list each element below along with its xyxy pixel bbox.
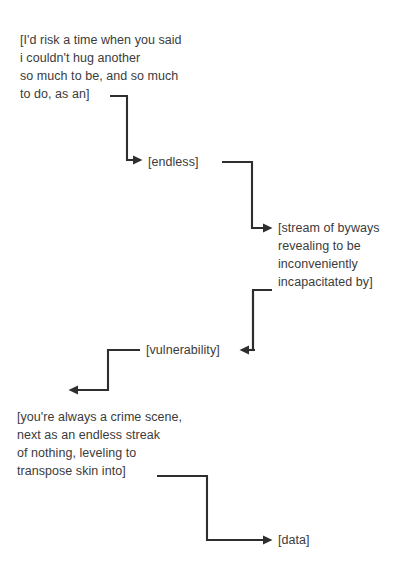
connector-endless-to-stream bbox=[222, 162, 273, 233]
source-passage: [I'd risk a time when you said i couldn'… bbox=[20, 31, 182, 103]
connector-stream-to-vulnerability bbox=[240, 290, 273, 355]
arrowhead-left bbox=[69, 385, 79, 394]
arrowhead-left bbox=[240, 345, 250, 354]
stream-passage: [stream of byways revealing to be inconv… bbox=[278, 219, 380, 291]
connector-crime-to-data bbox=[157, 476, 273, 545]
arrowhead-right bbox=[133, 155, 143, 164]
endless-node: [endless] bbox=[148, 153, 198, 171]
vulnerability-node: [vulnerability] bbox=[146, 341, 220, 359]
arrowhead-right bbox=[263, 535, 273, 544]
connector-vulnerability-to-crime bbox=[69, 350, 141, 395]
data-node: [data] bbox=[278, 531, 310, 549]
crime-scene-passage: [you're always a crime scene, next as an… bbox=[17, 408, 182, 480]
arrowhead-right bbox=[263, 223, 273, 232]
diagram-canvas: [I'd risk a time when you said i couldn'… bbox=[0, 0, 417, 575]
connector-source-to-endless bbox=[110, 96, 143, 165]
